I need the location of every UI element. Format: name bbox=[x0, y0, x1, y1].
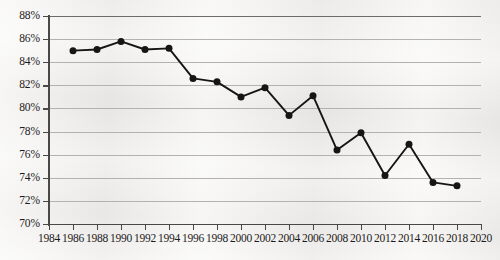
x-axis-tick bbox=[289, 224, 290, 230]
y-axis-tick-label: 72% bbox=[0, 195, 40, 207]
gridline bbox=[49, 62, 481, 63]
x-axis-tick bbox=[49, 224, 50, 230]
x-axis-tick bbox=[193, 224, 194, 230]
y-axis-tick-label: 74% bbox=[0, 172, 40, 184]
gridline bbox=[49, 178, 481, 179]
x-axis-tick bbox=[433, 224, 434, 230]
y-axis-tick-label: 82% bbox=[0, 79, 40, 91]
x-axis-tick bbox=[73, 224, 74, 230]
x-axis-tick bbox=[217, 224, 218, 230]
x-axis-tick bbox=[337, 224, 338, 230]
line-chart: 88%86%84%82%80%78%76%74%72%70% 198419861… bbox=[0, 0, 500, 260]
x-axis-tick bbox=[121, 224, 122, 230]
gridline bbox=[49, 16, 481, 17]
plot-area bbox=[49, 16, 481, 224]
x-axis-tick bbox=[409, 224, 410, 230]
y-axis-tick-label: 80% bbox=[0, 102, 40, 114]
gridline bbox=[49, 108, 481, 109]
gridline bbox=[49, 132, 481, 133]
y-axis-tick-label: 86% bbox=[0, 33, 40, 45]
gridline bbox=[49, 201, 481, 202]
x-axis-tick bbox=[313, 224, 314, 230]
x-axis-tick bbox=[169, 224, 170, 230]
x-axis-tick bbox=[457, 224, 458, 230]
y-axis-tick-label: 78% bbox=[0, 126, 40, 138]
y-axis-tick-label: 70% bbox=[0, 218, 40, 230]
x-axis-tick bbox=[241, 224, 242, 230]
y-axis-tick-label: 84% bbox=[0, 56, 40, 68]
x-axis-tick bbox=[385, 224, 386, 230]
gridline bbox=[49, 39, 481, 40]
x-axis-tick-label: 2020 bbox=[461, 233, 500, 245]
gridline bbox=[49, 155, 481, 156]
x-axis-tick bbox=[97, 224, 98, 230]
x-axis-tick bbox=[265, 224, 266, 230]
y-axis-line bbox=[48, 15, 50, 226]
x-axis-tick bbox=[361, 224, 362, 230]
x-axis-tick bbox=[481, 224, 482, 230]
y-axis-tick-label: 88% bbox=[0, 10, 40, 22]
y-axis-tick-label: 76% bbox=[0, 149, 40, 161]
x-axis-tick bbox=[145, 224, 146, 230]
gridline bbox=[49, 85, 481, 86]
